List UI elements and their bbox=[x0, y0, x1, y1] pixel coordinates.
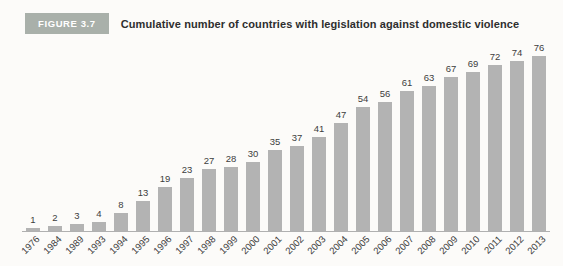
bar-value-label: 37 bbox=[292, 132, 303, 143]
bar bbox=[158, 187, 172, 231]
x-axis-label: 1984 bbox=[41, 233, 64, 256]
x-axis-label: 2005 bbox=[349, 233, 372, 256]
x-axis-label: 2004 bbox=[327, 233, 350, 256]
bar bbox=[26, 228, 40, 231]
bar bbox=[378, 102, 392, 231]
bar bbox=[92, 222, 106, 231]
bar-column: 542005 bbox=[352, 44, 374, 231]
bar-column: 302000 bbox=[242, 44, 264, 231]
bar-value-label: 3 bbox=[74, 210, 79, 221]
bar-value-label: 41 bbox=[314, 123, 325, 134]
bar-value-label: 30 bbox=[248, 148, 259, 159]
x-axis-label: 2003 bbox=[305, 233, 328, 256]
bar-column: 722011 bbox=[484, 44, 506, 231]
bar-chart: 1197621984319894199381994131995191996231… bbox=[22, 44, 550, 232]
x-axis-label: 1999 bbox=[217, 233, 240, 256]
x-axis-label: 1997 bbox=[173, 233, 196, 256]
x-axis-label: 2007 bbox=[393, 233, 416, 256]
bar bbox=[312, 137, 326, 231]
x-axis-label: 2000 bbox=[239, 233, 262, 256]
bar bbox=[532, 56, 546, 231]
bar-column: 472004 bbox=[330, 44, 352, 231]
x-axis-label: 1976 bbox=[19, 233, 42, 256]
x-axis-label: 2006 bbox=[371, 233, 394, 256]
x-axis-label: 1994 bbox=[107, 233, 130, 256]
bar-column: 612007 bbox=[396, 44, 418, 231]
bar-column: 412003 bbox=[308, 44, 330, 231]
bar-column: 742012 bbox=[506, 44, 528, 231]
x-axis-label: 2002 bbox=[283, 233, 306, 256]
bar-value-label: 47 bbox=[336, 109, 347, 120]
x-axis-label: 1996 bbox=[151, 233, 174, 256]
bar bbox=[70, 224, 84, 231]
bar bbox=[136, 201, 150, 231]
bar-value-label: 67 bbox=[446, 63, 457, 74]
bar-value-label: 1 bbox=[30, 214, 35, 225]
x-axis-label: 1995 bbox=[129, 233, 152, 256]
bar-column: 21984 bbox=[44, 44, 66, 231]
bar-value-label: 72 bbox=[490, 51, 501, 62]
bar-value-label: 54 bbox=[358, 93, 369, 104]
bar bbox=[400, 91, 414, 231]
bar-value-label: 74 bbox=[512, 47, 523, 58]
bar-column: 271998 bbox=[198, 44, 220, 231]
bar bbox=[510, 61, 524, 231]
x-axis-label: 2012 bbox=[503, 233, 526, 256]
x-axis-label: 2010 bbox=[459, 233, 482, 256]
bar-column: 131995 bbox=[132, 44, 154, 231]
bar bbox=[422, 86, 436, 231]
x-axis-label: 2001 bbox=[261, 233, 284, 256]
bar bbox=[488, 65, 502, 231]
x-axis-label: 1989 bbox=[63, 233, 86, 256]
bar-value-label: 69 bbox=[468, 58, 479, 69]
bar bbox=[268, 150, 282, 231]
x-axis-label: 2009 bbox=[437, 233, 460, 256]
bar-column: 372002 bbox=[286, 44, 308, 231]
bar-column: 11976 bbox=[22, 44, 44, 231]
bar bbox=[202, 169, 216, 231]
bar-column: 81994 bbox=[110, 44, 132, 231]
bar-value-label: 8 bbox=[118, 199, 123, 210]
bar-column: 762013 bbox=[528, 44, 550, 231]
bar bbox=[334, 123, 348, 231]
bar-value-label: 2 bbox=[52, 212, 57, 223]
bar-value-label: 23 bbox=[182, 164, 193, 175]
bar-column: 352001 bbox=[264, 44, 286, 231]
figure-header: FIGURE 3.7 Cumulative number of countrie… bbox=[25, 13, 519, 34]
bar-column: 281999 bbox=[220, 44, 242, 231]
figure-panel: FIGURE 3.7 Cumulative number of countrie… bbox=[0, 0, 563, 266]
bar bbox=[356, 107, 370, 231]
bar-value-label: 56 bbox=[380, 88, 391, 99]
figure-number-badge: FIGURE 3.7 bbox=[25, 13, 109, 34]
figure-title: Cumulative number of countries with legi… bbox=[121, 18, 520, 30]
bar-value-label: 35 bbox=[270, 136, 281, 147]
x-axis-label: 2013 bbox=[525, 233, 548, 256]
bar-value-label: 61 bbox=[402, 77, 413, 88]
bar bbox=[180, 178, 194, 231]
bar bbox=[114, 213, 128, 231]
bar-value-label: 13 bbox=[138, 187, 149, 198]
bar-value-label: 19 bbox=[160, 173, 171, 184]
bar-column: 31989 bbox=[66, 44, 88, 231]
x-axis-label: 2008 bbox=[415, 233, 438, 256]
x-axis-label: 1993 bbox=[85, 233, 108, 256]
bar-value-label: 28 bbox=[226, 153, 237, 164]
bar-column: 632008 bbox=[418, 44, 440, 231]
bar-column: 41993 bbox=[88, 44, 110, 231]
bar-column: 231997 bbox=[176, 44, 198, 231]
x-axis-label: 2011 bbox=[481, 233, 503, 255]
bar bbox=[224, 167, 238, 231]
bar-value-label: 27 bbox=[204, 155, 215, 166]
bar-value-label: 76 bbox=[534, 42, 545, 53]
bar-value-label: 63 bbox=[424, 72, 435, 83]
bar-column: 191996 bbox=[154, 44, 176, 231]
x-axis-label: 1998 bbox=[195, 233, 218, 256]
bar bbox=[466, 72, 480, 231]
bar-value-label: 4 bbox=[96, 208, 101, 219]
bar bbox=[48, 226, 62, 231]
bar bbox=[290, 146, 304, 231]
bar bbox=[444, 77, 458, 231]
bar bbox=[246, 162, 260, 231]
bar-column: 692010 bbox=[462, 44, 484, 231]
bar-column: 672009 bbox=[440, 44, 462, 231]
